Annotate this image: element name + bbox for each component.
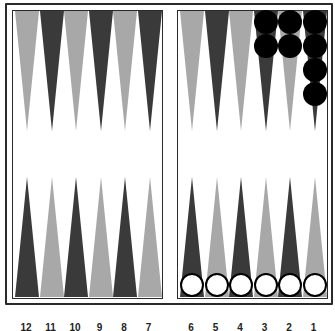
point-label: 12 (14, 323, 38, 331)
black-checker[interactable] (303, 58, 327, 82)
top-left-point-5[interactable] (113, 11, 137, 131)
black-checker[interactable] (303, 10, 327, 34)
bottom-left-point-6[interactable] (138, 177, 162, 297)
top-right-point-1[interactable] (180, 11, 204, 131)
black-checker[interactable] (303, 34, 327, 58)
white-checker[interactable] (278, 273, 302, 297)
top-left-point-1[interactable] (15, 11, 39, 131)
white-checker[interactable] (205, 273, 229, 297)
point-label: 1 (302, 323, 326, 331)
point-label: 4 (228, 323, 252, 331)
point-label: 11 (39, 323, 63, 331)
point-label: 7 (137, 323, 161, 331)
point-label: 2 (277, 323, 301, 331)
board-right-half (177, 10, 328, 299)
point-label: 9 (88, 323, 112, 331)
black-checker[interactable] (254, 34, 278, 58)
top-left-point-6[interactable] (138, 11, 162, 131)
point-label: 6 (179, 323, 203, 331)
bottom-left-point-4[interactable] (89, 177, 113, 297)
white-checker[interactable] (229, 273, 253, 297)
black-checker[interactable] (278, 34, 302, 58)
top-right-point-3[interactable] (229, 11, 253, 131)
black-checker[interactable] (278, 10, 302, 34)
white-checker[interactable] (254, 273, 278, 297)
point-label: 3 (253, 323, 277, 331)
top-left-point-2[interactable] (40, 11, 64, 131)
top-right-point-2[interactable] (205, 11, 229, 131)
bottom-left-point-3[interactable] (64, 177, 88, 297)
bottom-left-point-5[interactable] (113, 177, 137, 297)
black-checker[interactable] (254, 10, 278, 34)
point-label: 8 (112, 323, 136, 331)
bottom-left-point-1[interactable] (15, 177, 39, 297)
point-label: 5 (204, 323, 228, 331)
point-number-labels: 121110987654321 (0, 323, 335, 331)
bottom-left-point-2[interactable] (40, 177, 64, 297)
black-checker[interactable] (303, 82, 327, 106)
top-left-point-4[interactable] (89, 11, 113, 131)
point-label: 10 (63, 323, 87, 331)
board-left-half (12, 10, 163, 299)
top-left-point-3[interactable] (64, 11, 88, 131)
white-checker[interactable] (303, 273, 327, 297)
white-checker[interactable] (180, 273, 204, 297)
